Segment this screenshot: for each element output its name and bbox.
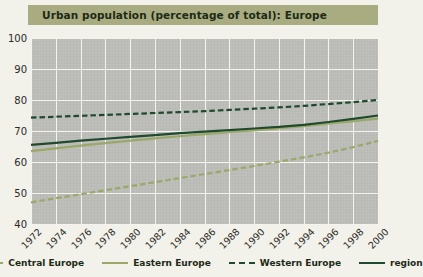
y-axis-tick-label: 60 — [14, 157, 27, 168]
legend-swatch — [229, 262, 255, 264]
y-axis-tick-label: 90 — [14, 64, 27, 75]
series-line — [31, 141, 378, 202]
page-title: Urban population (percentage of total): … — [28, 9, 327, 21]
series-lines — [31, 38, 378, 224]
y-axis-tick-label: 50 — [14, 188, 27, 199]
y-axis: 405060708090100 — [0, 38, 27, 224]
x-axis-tick-label: 1992 — [267, 226, 292, 251]
legend-swatch — [0, 262, 3, 264]
x-axis-tick-label: 1984 — [168, 226, 193, 251]
legend-swatch — [102, 262, 128, 264]
x-axis-tick-label: 1996 — [316, 226, 341, 251]
legend-label: Western Europe — [260, 258, 341, 268]
x-axis-tick-label: 1974 — [44, 226, 69, 251]
legend-item[interactable]: Central Europe — [0, 258, 84, 268]
x-axis-tick-label: 1972 — [19, 226, 44, 251]
x-axis-tick-label: 1990 — [242, 226, 267, 251]
legend-label: Eastern Europe — [133, 258, 211, 268]
series-line — [31, 116, 378, 145]
y-axis-tick-label: 40 — [14, 219, 27, 230]
chart-legend: Central EuropeEastern EuropeWestern Euro… — [0, 256, 400, 270]
series-line — [31, 119, 378, 152]
x-axis-tick-label: 1988 — [217, 226, 242, 251]
legend-item[interactable]: region — [359, 258, 423, 268]
series-line — [31, 100, 378, 118]
x-axis-tick-label: 1978 — [93, 226, 118, 251]
x-axis-tick-label: 1976 — [68, 226, 93, 251]
chart-title-bar: Urban population (percentage of total): … — [28, 5, 378, 25]
gridline-horizontal — [31, 224, 378, 225]
x-axis-tick-label: 2000 — [366, 226, 391, 251]
legend-item[interactable]: Western Europe — [229, 258, 341, 268]
y-axis-tick-label: 80 — [14, 95, 27, 106]
x-axis-tick-label: 1994 — [292, 226, 317, 251]
legend-label: region — [390, 258, 423, 268]
plot-area — [31, 38, 378, 224]
legend-item[interactable]: Eastern Europe — [102, 258, 211, 268]
y-axis-tick-label: 100 — [8, 33, 27, 44]
x-axis-tick-label: 1986 — [192, 226, 217, 251]
x-axis-tick-label: 1982 — [143, 226, 168, 251]
legend-label: Central Europe — [8, 258, 84, 268]
y-axis-tick-label: 70 — [14, 126, 27, 137]
x-axis-tick-label: 1998 — [341, 226, 366, 251]
x-axis: 1972197419761978198019821984198619881990… — [31, 226, 378, 256]
x-axis-tick-label: 1980 — [118, 226, 143, 251]
gridline-vertical — [378, 38, 379, 224]
legend-swatch — [359, 262, 385, 264]
